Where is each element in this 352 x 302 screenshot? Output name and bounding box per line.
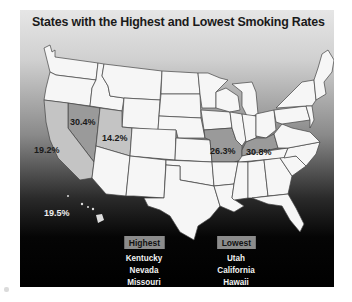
hawaii-island-1 <box>67 195 69 197</box>
legend-highest: Highest Kentucky Nevada Missouri <box>104 232 184 287</box>
hawaii-big-island <box>96 214 104 223</box>
hawaii-island-3 <box>87 206 89 208</box>
state-montana <box>102 64 162 100</box>
hawaii-island-4 <box>92 208 94 210</box>
label-hawaii: 19.5% <box>44 208 70 218</box>
state-wisconsin <box>216 88 240 112</box>
state-wyoming <box>122 98 160 130</box>
state-ohio <box>256 110 276 138</box>
state-pennsylvania <box>274 106 310 124</box>
state-new-mexico <box>126 156 166 198</box>
legend-lowest-header: Lowest <box>217 236 255 249</box>
state-florida <box>252 194 304 232</box>
legend-highest-item: Kentucky <box>108 252 180 264</box>
legend-lowest-item: California <box>200 264 272 276</box>
scan-artifact <box>4 287 9 292</box>
state-iowa <box>201 110 232 130</box>
state-kansas <box>175 138 212 162</box>
label-kentucky: 30.8% <box>246 147 272 157</box>
label-nevada: 30.4% <box>70 117 96 127</box>
state-north-dakota <box>161 71 200 94</box>
legend-highest-header: Highest <box>124 236 164 249</box>
legend-lowest-item: Hawaii <box>200 276 272 287</box>
label-california: 19.2% <box>34 145 60 155</box>
legend-highest-item: Nevada <box>108 264 180 276</box>
state-new-england <box>314 50 334 100</box>
legend-highest-item: Missouri <box>108 276 180 287</box>
map-panel: States with the Highest and Lowest Smoki… <box>20 10 334 287</box>
state-colorado <box>130 128 176 160</box>
hawaii-island-2 <box>81 203 83 205</box>
state-new-york <box>276 80 316 108</box>
label-missouri: 26.3% <box>210 146 236 156</box>
legend-lowest-item: Utah <box>200 252 272 264</box>
state-south-dakota <box>159 94 201 118</box>
label-utah: 14.2% <box>102 133 128 143</box>
legend-lowest: Lowest Utah California Hawaii <box>196 232 276 287</box>
